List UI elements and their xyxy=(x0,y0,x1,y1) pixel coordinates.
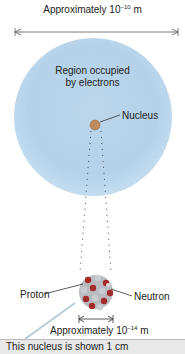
small-nucleus-icon xyxy=(90,120,100,130)
large-nucleus-icon xyxy=(79,275,113,310)
proton-label: Proton xyxy=(20,289,49,300)
nucleus-size-unit: m xyxy=(137,325,148,336)
nucleus-leader-line xyxy=(100,115,120,122)
nucleus-size-label: Approximately 10−14 m xyxy=(50,325,149,336)
neutron-label: Neutron xyxy=(134,291,170,302)
neutron-leader-line xyxy=(111,289,132,296)
nucleus-size-text: Approximately 10 xyxy=(50,325,127,336)
nucleus-label: Nucleus xyxy=(122,110,158,121)
zoom-dotted-lines xyxy=(80,131,111,272)
nucleus-size-exponent: −14 xyxy=(127,325,137,331)
proton-leader-line xyxy=(44,284,83,294)
callout-box: This nucleus is shown 1 cm xyxy=(0,339,185,354)
nucleus-span-arrow-icon xyxy=(79,315,113,323)
